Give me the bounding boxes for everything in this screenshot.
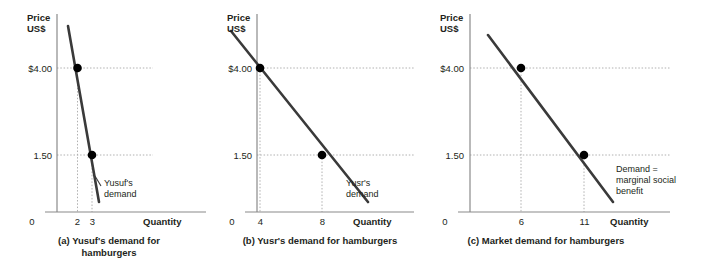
y-tick-label-1.50: 1.50	[418, 150, 464, 161]
panel-caption: (b) Yusr's demand for hamburgers	[214, 235, 426, 247]
y-axis-title: Price US$	[227, 12, 250, 34]
y-axis-title: Price US$	[440, 12, 463, 34]
y-tick-label-4.00: $4.00	[206, 63, 252, 74]
panel-a-yusuf-demand: Price US$ $4.00 1.50 0 2 3 Quantity Yusu…	[0, 0, 218, 262]
data-point-4-4.00	[256, 64, 265, 73]
x-origin-label: 0	[439, 216, 451, 227]
y-axis-title: Price US$	[27, 12, 50, 34]
y-tick-label-4.00: $4.00	[418, 63, 464, 74]
demand-curve	[68, 26, 99, 202]
data-point-8-1.50	[318, 151, 327, 160]
x-tick-label-11: 11	[577, 216, 592, 227]
demand-curve-label: Demand = marginal social benefit	[616, 164, 676, 197]
y-tick-label-1.50: 1.50	[206, 150, 252, 161]
panel-caption: (c) Market demand for hamburgers	[426, 235, 666, 247]
x-origin-label: 0	[26, 216, 38, 227]
x-origin-label: 0	[226, 216, 238, 227]
data-point-6-4.00	[517, 64, 526, 73]
demand-curves-figure: Price US$ $4.00 1.50 0 2 3 Quantity Yusu…	[0, 0, 706, 262]
x-axis-title: Quantity	[610, 216, 649, 227]
x-tick-label-3: 3	[86, 216, 99, 227]
data-point-3-1.50	[88, 151, 97, 160]
x-tick-label-2: 2	[71, 216, 84, 227]
x-tick-label-4: 4	[254, 216, 267, 227]
y-tick-label-4.00: $4.00	[8, 63, 52, 74]
data-point-11-1.50	[580, 151, 589, 160]
demand-curve	[488, 35, 613, 202]
panel-caption: (a) Yusuf's demand for hamburgers	[14, 235, 204, 259]
demand-curve-label: Yusr's demand	[346, 178, 379, 200]
panel-b-yusr-demand: Price US$ $4.00 1.50 0 4 8 Quantity Yusr…	[218, 0, 426, 262]
panel-c-market-demand: Price US$ $4.00 1.50 0 6 11 Quantity Dem…	[426, 0, 706, 262]
x-tick-label-6: 6	[515, 216, 528, 227]
x-axis-title: Quantity	[143, 216, 182, 227]
y-tick-label-1.50: 1.50	[8, 150, 52, 161]
demand-curve-label: Yusuf's demand	[104, 178, 137, 200]
panel-c-plot	[426, 0, 706, 262]
x-axis-title: Quantity	[353, 216, 392, 227]
demand-curve	[231, 31, 368, 202]
x-tick-label-8: 8	[316, 216, 329, 227]
data-point-2-4.00	[73, 64, 82, 73]
